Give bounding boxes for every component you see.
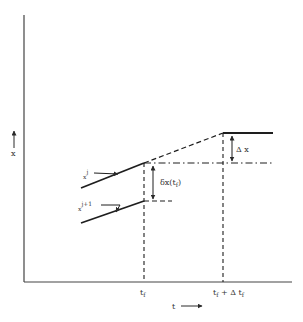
tick-tf-plus-delta: tf + Δ tf bbox=[213, 288, 245, 298]
trajectory-xj-extrapolation bbox=[144, 133, 223, 163]
tick-tf: tf bbox=[140, 288, 146, 298]
x-axis-label: t bbox=[172, 302, 176, 311]
y-axis-label: x bbox=[11, 149, 16, 158]
xj1-pointer-arrow-icon bbox=[101, 205, 120, 212]
trajectory-xj bbox=[81, 163, 144, 188]
xj-label: xj bbox=[83, 168, 88, 180]
xj1-label: xj+1 bbox=[78, 200, 92, 212]
diagram: x t δx(tf) Δ x xj xj+1 tf tf + Δ tf bbox=[0, 0, 303, 322]
xj-pointer-arrow-icon bbox=[94, 173, 118, 174]
capital-delta-x-label: Δ x bbox=[236, 145, 249, 154]
delta-x-tf-label: δx(tf) bbox=[160, 178, 181, 188]
